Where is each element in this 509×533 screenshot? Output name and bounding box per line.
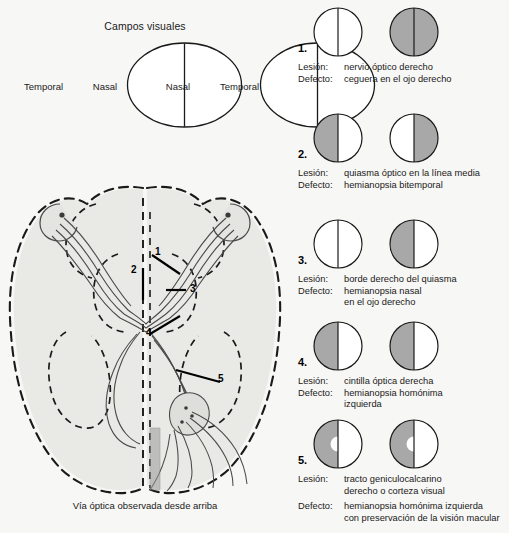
case-1-field-circles — [290, 6, 509, 58]
left-half-shaded — [314, 114, 338, 162]
case-4-defect-label: Defecto: — [298, 388, 344, 400]
lesion-cases-panel: 1.Lesión:nervio óptico derechoDefecto:ce… — [290, 0, 509, 533]
case-4-number: 4. — [298, 356, 307, 368]
visual-cortex-band — [150, 428, 160, 490]
brain-marker-3: 3 — [190, 283, 196, 294]
case-3-description: Lesión:borde derecho del quiasmaDefecto:… — [298, 274, 457, 309]
brain-marker-2: 2 — [131, 264, 137, 275]
case-1-left-eye-field — [314, 8, 362, 56]
left-half-shaded — [390, 322, 414, 370]
case-2-description: Lesión:quiasma óptico en la línea mediaD… — [298, 168, 480, 191]
case-2-lesion-label: Lesión: — [298, 168, 344, 180]
case-3-left-eye-field — [314, 220, 362, 268]
case-2-number: 2. — [298, 148, 307, 160]
case-3-defect-label: Defecto: — [298, 286, 344, 298]
brain-diagram-caption: Vía óptica observada desde arriba — [0, 500, 290, 511]
case-3-right-eye-field — [390, 220, 438, 268]
case-1-defect-value: ceguera en el ojo derecho — [344, 74, 452, 86]
case-3-defect-value-line-2: en el ojo derecho — [298, 297, 457, 309]
case-5-right-eye-field — [390, 420, 438, 468]
case-5-lesion-label: Lesión: — [298, 474, 344, 486]
case-4-defect-value-line-2: izquierda — [298, 399, 443, 411]
case-1-lesion-label: Lesión: — [298, 62, 344, 74]
case-4-right-eye-field — [390, 322, 438, 370]
case-3-field-circles — [290, 218, 509, 270]
left-eye-nasal-label: Nasal — [80, 81, 130, 92]
case-4-defect-value: hemianopsia homónima — [344, 388, 443, 400]
right-half-shaded — [414, 114, 438, 162]
case-4-lesion-label: Lesión: — [298, 376, 344, 388]
case-4-left-eye-field — [314, 322, 362, 370]
case-5-number: 5. — [298, 454, 307, 466]
optic-pathway-panel: Campos visuales Temporal Nasal Nasal Tem… — [0, 0, 290, 533]
left-half-shaded — [390, 220, 414, 268]
case-2-defect-label: Defecto: — [298, 180, 344, 192]
case-2-defect-value: hemianopsia bitemporal — [344, 180, 480, 192]
case-2-right-eye-field — [390, 114, 438, 162]
case-3-number: 3. — [298, 254, 307, 266]
case-1-right-eye-field — [390, 8, 438, 56]
case-5-defect-value-line-2: con preservación de la visión macular — [298, 513, 500, 525]
right-eye-temporal-label: Temporal — [212, 81, 267, 92]
brain-marker-1: 1 — [155, 246, 161, 257]
right-eye-nasal-label: Nasal — [153, 81, 203, 92]
case-2-field-circles — [290, 112, 509, 164]
brain-marker-4: 4 — [146, 327, 152, 338]
left-half-shaded — [390, 8, 414, 56]
case-1-description: Lesión:nervio óptico derechoDefecto:cegu… — [298, 62, 452, 85]
case-2-lesion-value: quiasma óptico en la línea media — [344, 168, 480, 180]
case-5-left-eye-field — [314, 420, 362, 468]
brain-optic-pathway-diagram — [0, 182, 290, 497]
case-3-defect-value: hemianopsia nasal — [344, 286, 457, 298]
case-4-field-circles — [290, 320, 509, 372]
left-half-shaded — [314, 322, 338, 370]
case-4-description: Lesión:cintilla óptica derechaDefecto:he… — [298, 376, 443, 411]
brain-marker-5: 5 — [218, 373, 224, 384]
right-half-shaded — [414, 8, 438, 56]
case-4-lesion-value: cintilla óptica derecha — [344, 376, 443, 388]
case-3-lesion-value: borde derecho del quiasma — [344, 274, 457, 286]
case-3-lesion-label: Lesión: — [298, 274, 344, 286]
case-5-defect-value: hemianopsia homónima izquierda — [344, 501, 500, 513]
case-2-left-eye-field — [314, 114, 362, 162]
case-5-lesion-value: tracto geniculocalcarino — [344, 474, 500, 486]
case-5-description: Lesión:tracto geniculocalcarinoderecho o… — [298, 474, 500, 524]
case-5-field-circles — [290, 418, 509, 470]
case-5-defect-label: Defecto: — [298, 501, 344, 513]
case-5-lesion-value-line-2: derecho o corteza visual — [298, 486, 500, 498]
case-1-defect-label: Defecto: — [298, 74, 344, 86]
case-1-lesion-value: nervio óptico derecho — [344, 62, 452, 74]
left-eye-temporal-label: Temporal — [16, 81, 71, 92]
case-1-number: 1. — [298, 42, 307, 54]
